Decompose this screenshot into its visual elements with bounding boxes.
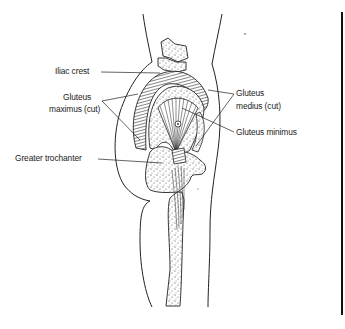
leader-gluteus-medius-a [208,90,234,94]
leader-gluteus-maximus-a [102,94,138,101]
greater-trochanter-bone [146,147,206,306]
label-gluteus-maximus-line2: maximus (cut) [49,104,100,115]
label-gluteus-maximus-line1: Gluteus [63,92,91,103]
anatomy-diagram: Iliac crest Gluteus maximus (cut) Gluteu… [0,0,345,329]
label-gluteus-medius-line2: medius (cut) [236,101,281,112]
label-gluteus-medius-line1: Gluteus [236,88,264,99]
frame-right-border [341,12,343,315]
leader-iliac-crest [101,72,160,73]
vertebrae [158,38,188,72]
label-iliac-crest: Iliac crest [55,66,89,77]
label-greater-trochanter: Greater trochanter [15,153,82,164]
label-gluteus-minimus: Gluteus minimus [236,127,297,138]
gluteus-medius-tendon [172,148,186,164]
body-outline-right [208,14,222,307]
hip-anatomy-illustration [0,0,345,329]
